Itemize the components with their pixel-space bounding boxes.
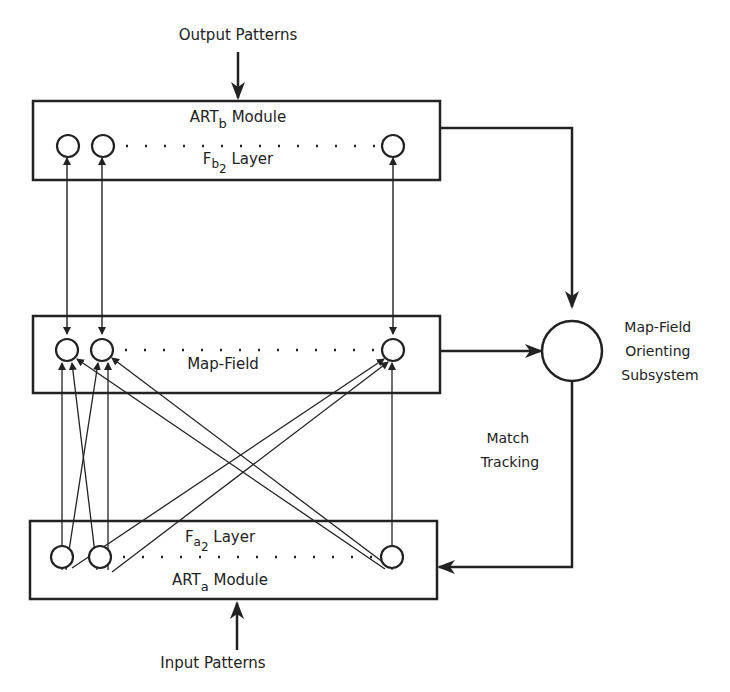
fb2-node-2 (92, 135, 114, 157)
fa2-node-n (381, 546, 403, 568)
fa2-node-1 (51, 546, 73, 568)
match-tracking-arrow (439, 381, 572, 567)
arta-module-box: Fa2 Layer ARTa Module (30, 521, 437, 599)
map-node-n (382, 339, 404, 361)
artb-module-box: ARTb Module Fb2 Layer (33, 101, 440, 180)
orienting-subsystem-node (542, 321, 602, 381)
map-field-box: Map-Field (33, 316, 440, 393)
map-node-2 (91, 339, 113, 361)
fa2-node-2 (89, 546, 111, 568)
artb-to-orienting-arrow (440, 128, 572, 307)
map-field-label: Map-Field (187, 355, 259, 373)
mapping-network-diagram: Output Patterns ARTb Module Fb2 Layer Ma… (0, 0, 730, 692)
artb-module-label: ARTb Module (190, 108, 286, 131)
orienting-subsystem-label: Map-Field Orienting Subsystem (621, 319, 698, 383)
input-patterns-label: Input Patterns (160, 654, 266, 672)
output-patterns-label: Output Patterns (179, 26, 298, 44)
fb2-node-n (382, 135, 404, 157)
map-node-1 (56, 339, 78, 361)
fb2-node-1 (57, 135, 79, 157)
match-tracking-label: Match Tracking (480, 430, 539, 470)
fb2-layer-label: Fb2 Layer (203, 150, 274, 176)
